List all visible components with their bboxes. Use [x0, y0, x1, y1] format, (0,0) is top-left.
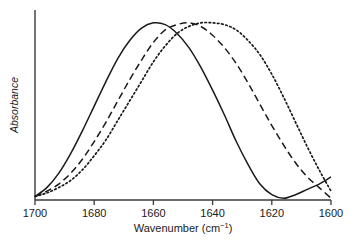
absorbance-spectrum-chart: 170016801660164016201600 Wavenumber (cm−… — [0, 0, 356, 243]
x-axis-tick-label: 1700 — [23, 207, 47, 219]
x-axis-tick-label: 1640 — [200, 207, 224, 219]
chart-figure: 170016801660164016201600 Wavenumber (cm−… — [0, 0, 356, 243]
y-axis-title: Absorbance — [8, 77, 20, 134]
x-axis-tick-label: 1680 — [82, 207, 106, 219]
x-axis-tick-label: 1600 — [319, 207, 343, 219]
x-axis-title: Wavenumber (cm−1) — [134, 221, 233, 234]
x-axis-tick-labels: 170016801660164016201600 — [23, 207, 343, 219]
x-axis-tick-label: 1620 — [260, 207, 284, 219]
chart-axes — [35, 10, 331, 200]
chart-series-group — [35, 23, 331, 199]
x-axis-tick-label: 1660 — [141, 207, 165, 219]
x-axis-ticks — [35, 200, 331, 205]
series-line-dotted — [35, 23, 331, 197]
